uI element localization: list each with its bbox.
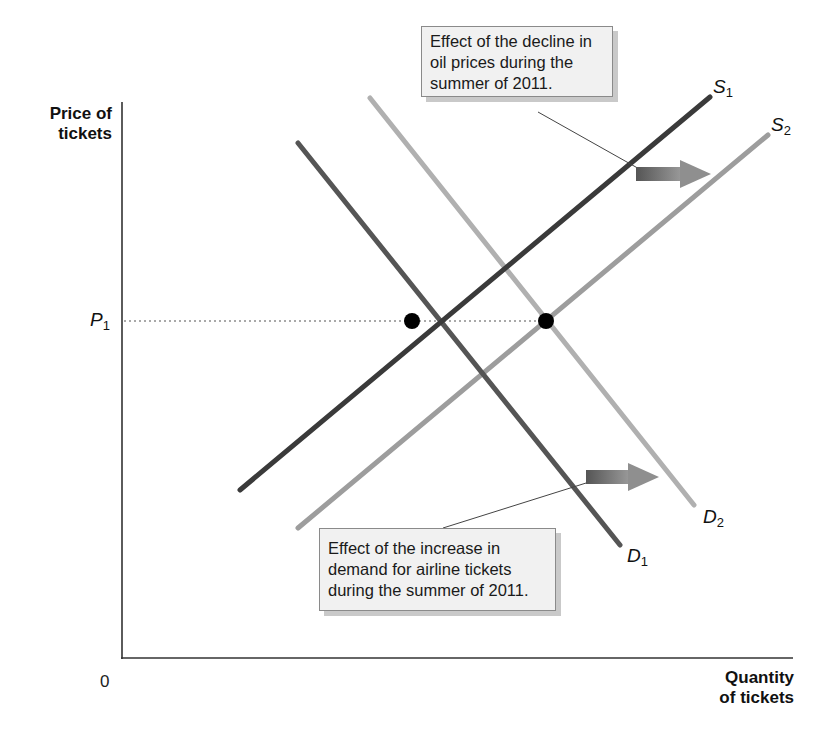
y-axis-title-line1: Price of xyxy=(34,104,112,124)
demand-callout-line3: during the summer of 2011. xyxy=(328,580,547,601)
s2-label-sub: 2 xyxy=(784,123,791,138)
demand-curve-d2 xyxy=(370,98,694,505)
d2-label: D2 xyxy=(703,506,724,530)
demand-callout-line1: Effect of the increase in xyxy=(328,538,547,559)
supply-callout-line2: oil prices during the xyxy=(430,52,604,73)
d2-label-sub: 2 xyxy=(717,515,724,530)
d1-label-sub: 1 xyxy=(641,554,648,569)
d1-label-main: D xyxy=(627,545,641,566)
equilibrium-point-2 xyxy=(538,313,554,329)
supply-shift-callout: Effect of the decline in oil prices duri… xyxy=(421,26,613,97)
supply-shift-arrow-icon xyxy=(636,160,711,188)
supply-callout-line1: Effect of the decline in xyxy=(430,31,604,52)
demand-callout-leader xyxy=(443,478,602,528)
supply-callout-line3: summer of 2011. xyxy=(430,73,604,94)
s2-label-main: S xyxy=(771,114,784,135)
supply-callout-leader xyxy=(538,112,650,175)
d2-label-main: D xyxy=(703,506,717,527)
p1-label: P1 xyxy=(90,309,110,333)
x-axis-title-line2: of tickets xyxy=(690,688,794,708)
demand-shift-arrow-icon xyxy=(586,463,659,491)
s1-label-main: S xyxy=(713,76,726,97)
p1-label-sub: 1 xyxy=(103,318,110,333)
p1-label-main: P xyxy=(90,309,103,330)
d1-label: D1 xyxy=(627,545,648,569)
supply-curve-s2 xyxy=(298,135,768,528)
demand-callout-line2: demand for airline tickets xyxy=(328,559,547,580)
y-axis-title: Price of tickets xyxy=(34,104,112,144)
origin-label: 0 xyxy=(100,672,109,692)
s2-label: S2 xyxy=(771,114,791,138)
s1-label: S1 xyxy=(713,76,733,100)
demand-shift-callout: Effect of the increase in demand for air… xyxy=(319,528,556,611)
y-axis-title-line2: tickets xyxy=(34,124,112,144)
x-axis-title: Quantity of tickets xyxy=(690,668,794,708)
s1-label-sub: 1 xyxy=(726,85,733,100)
equilibrium-point-1 xyxy=(404,313,420,329)
x-axis-title-line1: Quantity xyxy=(690,668,794,688)
supply-demand-diagram xyxy=(0,0,839,742)
